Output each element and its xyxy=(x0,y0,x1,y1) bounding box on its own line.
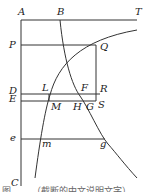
label-B: B xyxy=(56,6,64,17)
label-M: M xyxy=(50,101,62,112)
label-Q: Q xyxy=(100,41,108,52)
label-H: H xyxy=(72,101,82,112)
label-P: P xyxy=(8,39,16,50)
label-A: A xyxy=(17,6,25,17)
label-F: F xyxy=(80,82,89,93)
label-T: T xyxy=(135,6,143,17)
label-E: E xyxy=(8,93,17,104)
geometry-figure: A B T P Q D L F R E M H G S e m g C xyxy=(0,0,156,192)
label-g: g xyxy=(100,138,106,149)
label-m: m xyxy=(42,138,51,149)
label-S: S xyxy=(98,99,105,110)
label-e: e xyxy=(10,132,16,143)
figure-caption: 图 ……（截断的中文说明文字） xyxy=(2,184,154,192)
label-R: R xyxy=(99,83,108,94)
label-L: L xyxy=(41,82,49,93)
label-G: G xyxy=(86,101,94,112)
